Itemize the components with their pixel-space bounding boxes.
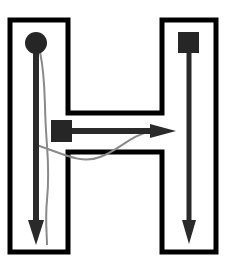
left-column-arrow	[28, 45, 44, 245]
h-stroke-diagram	[0, 0, 228, 266]
start-circle-marker	[25, 32, 47, 54]
crossbar-arrow	[70, 124, 176, 138]
right-column-arrow	[182, 50, 196, 244]
right-square-marker	[178, 32, 199, 53]
freehand-trace	[36, 52, 152, 245]
crossbar-square-marker	[51, 120, 72, 142]
